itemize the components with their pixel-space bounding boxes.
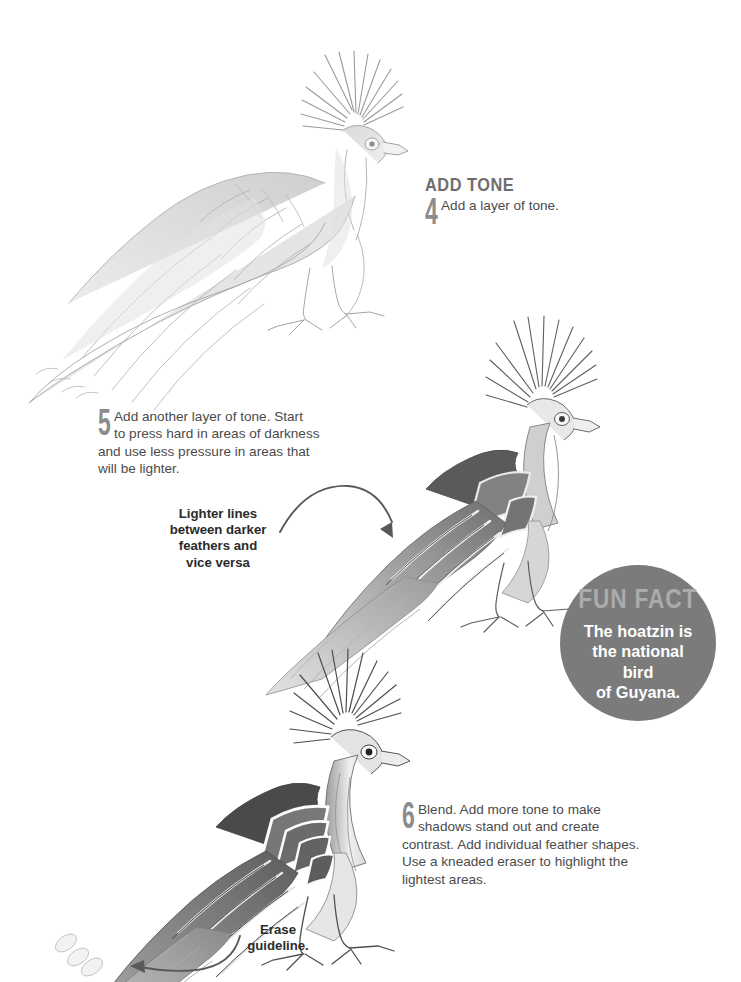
step-6-body: 6 Blend. Add more tone to make shadows s… (402, 801, 692, 888)
fun-fact-line-2: the national bird (578, 641, 698, 682)
step-6-line-1: Blend. Add more tone to make (402, 801, 692, 818)
step-6-line-2: shadows stand out and create (402, 818, 692, 835)
fun-fact-line-1: The hoatzin is (578, 621, 698, 642)
step-4-line-1: Add a layer of tone. (425, 197, 665, 214)
fun-fact-line-3: of Guyana. (578, 682, 698, 703)
step-6-number: 6 (402, 797, 415, 834)
step-5-text-block: 5 Add another layer of tone. Start to pr… (98, 408, 348, 478)
step-6-line-3: contrast. Add individual feather shapes. (402, 836, 692, 853)
step-4-number: 4 (425, 193, 438, 230)
fun-fact-body: The hoatzin is the national bird of Guya… (560, 621, 716, 703)
callout-lighter-lines-line-4: vice versa (132, 555, 304, 571)
step-5-number: 5 (98, 404, 111, 441)
step-5-line-2: to press hard in areas of darkness (98, 425, 348, 442)
step-5-line-1: Add another layer of tone. Start (98, 408, 348, 425)
step-6-line-4: Use a kneaded eraser to highlight the (402, 853, 692, 870)
step-5-line-4: will be lighter. (98, 460, 348, 477)
callout-arrow-lighter-lines (276, 478, 406, 548)
step-5-body: 5 Add another layer of tone. Start to pr… (98, 408, 348, 478)
step-5-line-3: and use less pressure in areas that (98, 443, 348, 460)
callout-arrow-erase-guideline (118, 930, 244, 978)
step-4-heading: ADD TONE (425, 174, 631, 196)
step-4-text-block: ADD TONE 4 Add a layer of tone. (425, 174, 665, 214)
fun-fact-title: FUN FACT (579, 584, 698, 615)
step-4-body: 4 Add a layer of tone. (425, 197, 665, 214)
step-6-line-5: lightest areas. (402, 871, 692, 888)
step-6-text-block: 6 Blend. Add more tone to make shadows s… (402, 801, 692, 888)
fun-fact-bubble: FUN FACT The hoatzin is the national bir… (560, 565, 716, 721)
